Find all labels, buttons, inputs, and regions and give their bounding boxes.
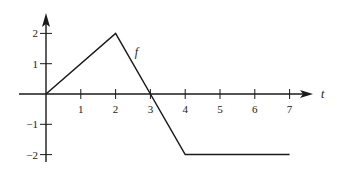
y-tick-label: −1 bbox=[26, 118, 38, 130]
x-tick-label: 1 bbox=[78, 103, 84, 115]
x-tick-label: 7 bbox=[287, 103, 293, 115]
axes bbox=[19, 13, 313, 162]
x-tick-label: 4 bbox=[182, 103, 188, 115]
x-axis-label: t bbox=[321, 87, 325, 101]
x-tick-label: 2 bbox=[113, 103, 119, 115]
chart: 123456721−1−2 ft bbox=[0, 0, 340, 171]
labels: ft bbox=[135, 45, 325, 101]
y-tick-label: 2 bbox=[33, 27, 39, 39]
x-tick-label: 5 bbox=[217, 103, 223, 115]
plot-area: 123456721−1−2 ft bbox=[0, 0, 340, 171]
y-tick-label: 1 bbox=[33, 58, 39, 70]
y-tick-label: −2 bbox=[26, 149, 38, 161]
x-tick-label: 3 bbox=[148, 103, 154, 115]
x-tick-label: 6 bbox=[252, 103, 258, 115]
series-label-f: f bbox=[135, 45, 140, 59]
